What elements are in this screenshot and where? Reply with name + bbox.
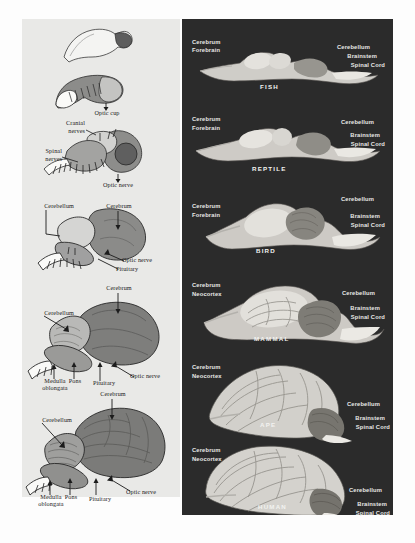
ape-neocortex-label: Neocortex bbox=[192, 373, 222, 380]
reptile-cerebellum-label: Cerebellum bbox=[277, 119, 374, 126]
mammal-cerebrum-label: Cerebrum bbox=[192, 282, 221, 289]
stage6-cerebrum-label: Cerebrum bbox=[88, 391, 138, 398]
human-cerebellum-label: Cerebellum bbox=[282, 487, 382, 494]
stage-6-drawing bbox=[22, 391, 180, 497]
stage3-optic-nerve-label: Optic nerve bbox=[94, 182, 142, 189]
stage5-cerebrum-label: Cerebrum bbox=[94, 285, 144, 292]
stage4-pituitary-label: Pituitary bbox=[116, 266, 162, 273]
reptile-cerebrum-label: Cerebrum bbox=[192, 116, 221, 123]
development-stage-4: Cerebellum Cerebrum Optic nerve Pituitar… bbox=[22, 191, 180, 279]
reptile-brainstem-label: Brainstem bbox=[277, 132, 380, 139]
comparative-row-reptile: Cerebrum Forebrain Cerebellum Brainstem … bbox=[182, 103, 393, 183]
stage6-optic-nerve-label: Optic nerve bbox=[126, 489, 176, 496]
ape-cerebrum-label: Cerebrum bbox=[192, 364, 221, 371]
comparative-row-mammal: Cerebrum Neocortex Cerebellum Brainstem … bbox=[182, 265, 393, 351]
comparative-row-ape: Cerebrum Neocortex Cerebellum Brainstem … bbox=[182, 351, 393, 443]
human-species-label: HUMAN bbox=[258, 503, 287, 510]
development-stage-2: Optic cup bbox=[22, 63, 180, 115]
fish-species-label: FISH bbox=[260, 83, 279, 90]
fish-cerebellum-label: Cerebellum bbox=[277, 44, 370, 51]
fish-brainstem-label: Brainstem bbox=[277, 53, 377, 60]
stage5-cerebellum-label: Cerebellum bbox=[22, 310, 74, 317]
human-neocortex-label: Neocortex bbox=[192, 456, 222, 463]
development-stage-3: Cranial nerves Spinal nerves Optic nerve bbox=[22, 117, 180, 191]
bird-brainstem-label: Brainstem bbox=[277, 213, 380, 220]
reptile-species-label: REPTILE bbox=[252, 165, 287, 172]
human-cerebrum-label: Cerebrum bbox=[192, 447, 221, 454]
stage4-optic-nerve-label: Optic nerve bbox=[122, 257, 174, 264]
fish-cerebrum-label: Cerebrum bbox=[192, 39, 221, 46]
comparative-row-fish: Cerebrum Forebrain Cerebellum Brainstem … bbox=[182, 25, 393, 103]
stage3-cranial-nerves-label-line1: Cranial bbox=[30, 120, 85, 127]
ape-cerebellum-label: Cerebellum bbox=[282, 401, 380, 408]
human-spinalcord-label: Spinal Cord bbox=[282, 510, 390, 517]
stage-2-drawing bbox=[22, 63, 180, 115]
ape-brainstem-label: Brainstem bbox=[282, 415, 385, 422]
development-stage-6: Cerebrum Cerebellum Pons Medulla oblonga… bbox=[22, 391, 180, 497]
bird-cerebrum-label: Cerebrum bbox=[192, 203, 221, 210]
stage-1-drawing bbox=[22, 23, 180, 65]
mammal-species-label: MAMMAL bbox=[254, 335, 289, 342]
comparative-row-bird: Cerebrum Forebrain Cerebellum Brainstem … bbox=[182, 183, 393, 265]
fish-spinalcord-label: Spinal Cord bbox=[277, 62, 385, 69]
stage3-spinal-nerves-label-line2: nerves bbox=[22, 156, 62, 163]
figure-root: Optic cup bbox=[0, 0, 415, 543]
human-brainstem-label: Brainstem bbox=[282, 501, 387, 508]
mammal-neocortex-label: Neocortex bbox=[192, 291, 222, 298]
stage6-cerebellum-label: Cerebellum bbox=[22, 417, 72, 424]
stage6-pituitary-label: Pituitary bbox=[80, 496, 120, 503]
mammal-spinalcord-label: Spinal Cord bbox=[277, 314, 385, 321]
fish-forebrain-label: Forebrain bbox=[192, 47, 220, 54]
stage4-cerebellum-label: Cerebellum bbox=[22, 203, 74, 210]
stage4-cerebrum-label: Cerebrum bbox=[94, 203, 144, 210]
stage5-pituitary-label: Pituitary bbox=[84, 380, 124, 387]
development-stage-5: Cerebrum Cerebellum Pons Medulla oblonga… bbox=[22, 281, 180, 389]
stage5-optic-nerve-label: Optic nerve bbox=[130, 373, 180, 380]
mammal-cerebellum-label: Cerebellum bbox=[277, 290, 375, 297]
reptile-forebrain-label: Forebrain bbox=[192, 125, 220, 132]
embryonic-development-panel: Optic cup bbox=[22, 19, 180, 497]
stage2-optic-cup-label: Optic cup bbox=[84, 110, 130, 117]
development-stage-1 bbox=[22, 23, 180, 65]
stage3-cranial-nerves-label-line2: nerves bbox=[30, 128, 85, 135]
bird-spinalcord-label: Spinal Cord bbox=[277, 222, 385, 229]
comparative-brains-panel: Cerebrum Forebrain Cerebellum Brainstem … bbox=[182, 19, 393, 515]
ape-spinalcord-label: Spinal Cord bbox=[282, 424, 390, 431]
bird-cerebellum-label: Cerebellum bbox=[277, 196, 374, 203]
mammal-brainstem-label: Brainstem bbox=[277, 305, 380, 312]
bird-forebrain-label: Forebrain bbox=[192, 212, 220, 219]
reptile-spinalcord-label: Spinal Cord bbox=[277, 141, 385, 148]
comparative-row-human: Cerebrum Neocortex Cerebellum Brainstem … bbox=[182, 443, 393, 515]
bird-species-label: BIRD bbox=[256, 247, 276, 254]
ape-species-label: APE bbox=[260, 421, 276, 428]
stage6-medulla-label-line2: oblongata bbox=[30, 501, 72, 508]
stage3-spinal-nerves-label-line1: Spinal bbox=[22, 148, 62, 155]
